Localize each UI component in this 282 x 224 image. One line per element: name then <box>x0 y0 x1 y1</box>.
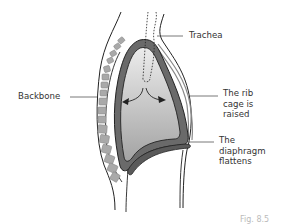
diaphragm-label: The diaphragm flattens <box>219 135 266 167</box>
backbone-label: Backbone <box>18 91 60 102</box>
abdomen-line <box>126 168 128 212</box>
figure-caption: Fig. 8.5 <box>240 215 269 224</box>
rib-cage-label: The rib cage is raised <box>223 88 253 120</box>
trachea-label: Trachea <box>189 30 223 41</box>
front-inner-line <box>180 150 183 208</box>
